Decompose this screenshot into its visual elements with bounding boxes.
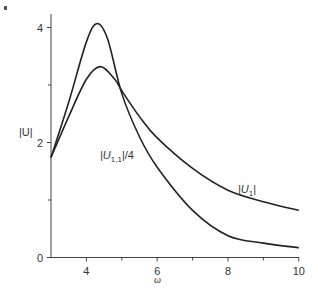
y-tick-label: 4 (37, 22, 43, 34)
series-u11-curve (51, 23, 299, 247)
y-tick-label: 2 (37, 137, 43, 149)
series-u1-curve (51, 67, 299, 211)
tick-labels: 46810024 (37, 22, 305, 277)
corner-mark (4, 6, 7, 10)
x-tick-label: 8 (225, 265, 231, 277)
y-tick-label: 0 (37, 252, 43, 264)
x-axis-label: ω (154, 274, 161, 285)
curves (51, 23, 299, 247)
x-tick-label: 10 (293, 265, 305, 277)
y-axis-label: |U| (19, 126, 33, 138)
chart: 46810024 ω |U| |U1,1|/4 |U1| (0, 0, 318, 300)
x-tick-label: 4 (83, 265, 89, 277)
ticks (47, 28, 299, 262)
series-label-u11: |U1,1|/4 (100, 149, 134, 164)
